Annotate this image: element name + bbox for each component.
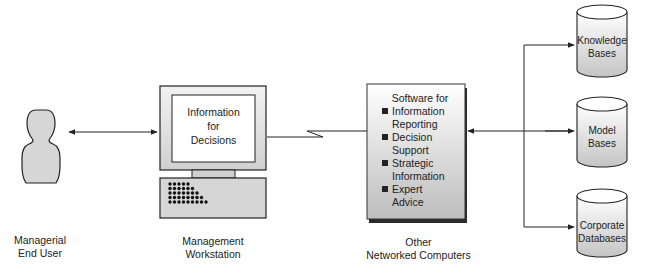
list-item: ExpertAdvice — [380, 183, 460, 209]
db-line: Bases — [577, 137, 627, 150]
bullet-icon — [382, 108, 388, 114]
item-line: Expert — [392, 183, 460, 196]
label-line: Workstation — [173, 248, 253, 261]
diagram-canvas — [0, 0, 657, 279]
db-line: Knowledge — [577, 34, 627, 47]
screen-line: Information — [172, 105, 255, 119]
keyboard-key-dot — [186, 191, 189, 194]
network-link-connector — [267, 131, 367, 137]
keyboard-key-dot — [173, 187, 176, 190]
db-line: Databases — [575, 232, 629, 245]
keyboard-key-dot — [173, 196, 176, 199]
keyboard-key-dot — [186, 187, 189, 190]
database-label-knowledge: Knowledge Bases — [577, 34, 627, 60]
bullet-icon — [382, 160, 388, 166]
label-line: Managerial — [5, 234, 75, 247]
keyboard-key-dot — [191, 187, 194, 190]
database-label-model: Model Bases — [577, 124, 627, 150]
item-line: Decision — [392, 131, 460, 144]
label-line: Networked Computers — [361, 249, 476, 262]
item-line: Reporting — [392, 118, 460, 131]
list-item: DecisionSupport — [380, 131, 460, 157]
keyboard-key-dot — [200, 196, 203, 199]
keyboard-key-dot — [177, 196, 180, 199]
keyboard-key-dot — [200, 200, 203, 203]
item-line: Information — [392, 105, 460, 118]
server-software-list: Software for InformationReporting Decisi… — [380, 92, 460, 209]
keyboard-key-dot — [168, 182, 171, 185]
keyboard-key-dot — [182, 191, 185, 194]
keyboard-key-dot — [177, 191, 180, 194]
keyboard-key-dot — [204, 200, 207, 203]
screen-line: for — [172, 119, 255, 133]
keyboard-key-dot — [168, 200, 171, 203]
keyboard-key-dot — [186, 196, 189, 199]
db-line: Corporate — [575, 219, 629, 232]
keyboard-key-dot — [173, 200, 176, 203]
keyboard-key-dot — [168, 191, 171, 194]
keyboard-key-dot — [182, 200, 185, 203]
workstation-label: Management Workstation — [173, 235, 253, 261]
keyboard-key-dot — [168, 187, 171, 190]
item-line: Information — [392, 170, 460, 183]
db-line: Bases — [577, 47, 627, 60]
label-line: End User — [5, 247, 75, 260]
keyboard-key-dot — [173, 191, 176, 194]
keyboard-key-dot — [186, 182, 189, 185]
keyboard-key-dot — [177, 187, 180, 190]
label-line: Other — [361, 236, 476, 249]
item-line: Advice — [392, 196, 460, 209]
keyboard-key-dot — [186, 200, 189, 203]
database-label-corporate: Corporate Databases — [575, 219, 629, 245]
keyboard-key-dot — [182, 182, 185, 185]
list-item: InformationReporting — [380, 105, 460, 131]
person-silhouette-icon — [22, 110, 60, 183]
keyboard-key-dot — [191, 200, 194, 203]
user-label: Managerial End User — [5, 234, 75, 260]
item-line: Support — [392, 144, 460, 157]
keyboard-key-dot — [195, 200, 198, 203]
keyboard-key-dot — [195, 191, 198, 194]
bullet-icon — [382, 186, 388, 192]
workstation-screen-text: Information for Decisions — [172, 105, 255, 147]
keyboard-key-dot — [177, 200, 180, 203]
list-item: StrategicInformation — [380, 157, 460, 183]
server-label: Other Networked Computers — [361, 236, 476, 262]
keyboard-key-dot — [182, 196, 185, 199]
keyboard-key-dot — [182, 187, 185, 190]
label-line: Management — [173, 235, 253, 248]
db-line: Model — [577, 124, 627, 137]
keyboard-key-dot — [177, 182, 180, 185]
keyboard-key-dot — [195, 196, 198, 199]
bullet-icon — [382, 134, 388, 140]
keyboard-key-dot — [168, 196, 171, 199]
screen-line: Decisions — [172, 133, 255, 147]
keyboard-key-dot — [173, 182, 176, 185]
keyboard-key-dot — [191, 196, 194, 199]
item-line: Strategic — [392, 157, 460, 170]
server-heading: Software for — [380, 92, 460, 105]
keyboard-key-dot — [191, 191, 194, 194]
